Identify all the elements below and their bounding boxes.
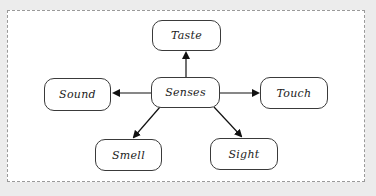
node-label: Touch	[277, 87, 312, 100]
node-label: Smell	[112, 149, 145, 162]
edge-senses-sight	[214, 107, 241, 136]
node-label: Sound	[59, 88, 96, 101]
node-smell[interactable]: Smell	[95, 139, 162, 171]
node-label: Taste	[171, 29, 202, 42]
node-label: Senses	[165, 86, 206, 99]
node-label: Sight	[228, 148, 259, 161]
node-sight[interactable]: Sight	[210, 138, 278, 170]
edge-senses-smell	[134, 107, 160, 137]
node-touch[interactable]: Touch	[260, 77, 328, 109]
node-senses[interactable]: Senses	[151, 77, 220, 108]
node-sound[interactable]: Sound	[44, 78, 111, 111]
node-taste[interactable]: Taste	[152, 20, 221, 51]
